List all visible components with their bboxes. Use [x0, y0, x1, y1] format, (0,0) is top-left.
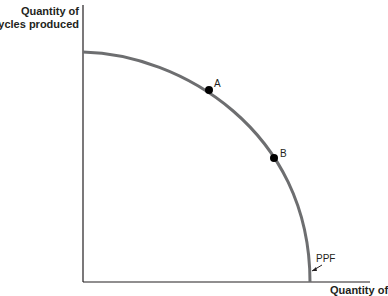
ppf-label: PPF [316, 253, 335, 264]
point-a-label: A [214, 78, 221, 89]
ppf-arrowhead [312, 267, 317, 271]
point-b-label: B [280, 148, 287, 159]
x-axis-label: Quantity of [330, 284, 388, 296]
y-axis-label-line2: bicycles produced [0, 18, 79, 31]
y-axis-label: Quantity of bicycles produced [0, 5, 79, 31]
y-axis-label-line1: Quantity of [0, 5, 79, 18]
point-a [205, 86, 213, 94]
ppf-curve [83, 52, 310, 282]
point-b [270, 154, 278, 162]
